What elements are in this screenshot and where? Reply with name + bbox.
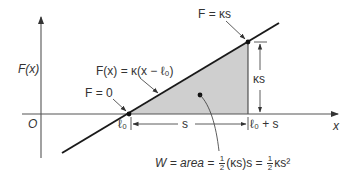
area-eq-middle: (κs)s = <box>226 156 266 170</box>
zero-force-point <box>127 112 132 117</box>
line-label-leader <box>140 78 158 93</box>
area-eq-tail: κs² <box>274 156 290 170</box>
zero-force-label: F = 0 <box>85 87 113 99</box>
end-force-leader <box>226 21 245 39</box>
y-axis-label: F(x) <box>18 63 39 75</box>
half-fraction-1: 12 <box>219 155 225 172</box>
l0-tick-label: ℓ₀ <box>118 118 127 130</box>
ks-dimension-label: κs <box>253 73 265 85</box>
line-equation-label: F(x) = κ(x − ℓ₀) <box>96 65 174 77</box>
x-axis-label: x <box>333 120 339 132</box>
half-fraction-2: 12 <box>267 155 273 172</box>
area-eq-lhs: W = area = <box>155 156 218 170</box>
s-dimension-label: s <box>182 118 188 130</box>
end-force-label: F = κs <box>198 8 231 20</box>
zero-force-leader <box>113 99 126 111</box>
area-equation: W = area = 12(κs)s = 12κs² <box>155 155 290 172</box>
origin-label: O <box>28 118 37 130</box>
l0-plus-s-tick-label: ℓ₀ + s <box>250 118 279 130</box>
end-force-point <box>246 40 251 45</box>
